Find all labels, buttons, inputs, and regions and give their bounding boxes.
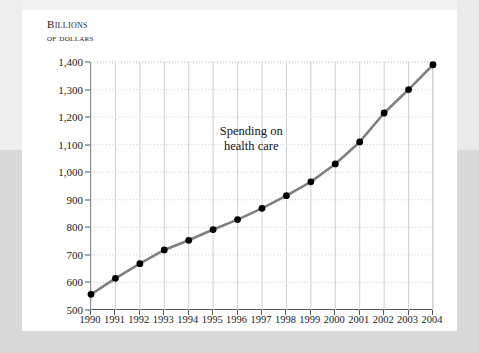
x-axis-tick bbox=[237, 310, 238, 315]
axis-unit-caption: Billions of dollars bbox=[47, 18, 94, 44]
chart-figure: Billions of dollars 5006007008009001,000… bbox=[0, 0, 479, 353]
series-line-health-care bbox=[91, 62, 433, 310]
x-axis-tick bbox=[359, 310, 360, 315]
y-axis-tick-label: 1,300 bbox=[37, 84, 83, 96]
series-annotation: Spending on health care bbox=[220, 124, 283, 154]
x-axis-tick bbox=[188, 310, 189, 315]
x-axis-tick-label: 1991 bbox=[104, 314, 125, 325]
data-point bbox=[161, 247, 168, 254]
data-point bbox=[356, 139, 363, 146]
x-axis-tick-label: 1995 bbox=[202, 314, 223, 325]
data-point bbox=[234, 216, 241, 223]
x-axis-tick bbox=[212, 310, 213, 315]
x-axis-tick bbox=[139, 310, 140, 315]
axis-unit-line2: of dollars bbox=[47, 31, 94, 44]
x-axis-tick-label: 2001 bbox=[348, 314, 369, 325]
annotation-line2: health care bbox=[220, 139, 283, 154]
data-point bbox=[259, 205, 266, 212]
axis-unit-line1: Billions bbox=[47, 18, 94, 31]
data-point bbox=[332, 161, 339, 168]
annotation-line1: Spending on bbox=[220, 124, 283, 139]
frame-band-bottom bbox=[0, 331, 479, 353]
x-axis-tick-label: 1999 bbox=[299, 314, 320, 325]
data-point bbox=[210, 226, 217, 233]
frame-band-left-upper bbox=[0, 0, 22, 150]
y-axis-tick-label: 600 bbox=[37, 276, 83, 288]
y-axis-tick-label: 1,100 bbox=[37, 139, 83, 151]
x-axis-tick bbox=[310, 310, 311, 315]
x-axis-tick bbox=[90, 310, 91, 315]
x-axis-tick-label: 2004 bbox=[422, 314, 443, 325]
x-axis-tick bbox=[285, 310, 286, 315]
y-axis-tick-label: 800 bbox=[37, 221, 83, 233]
x-axis-tick bbox=[163, 310, 164, 315]
y-axis-tick-label: 500 bbox=[37, 304, 83, 316]
x-axis-tick-label: 1997 bbox=[251, 314, 272, 325]
x-axis-tick bbox=[432, 310, 433, 315]
y-axis-tick-label: 700 bbox=[37, 249, 83, 261]
data-point bbox=[381, 110, 388, 117]
y-axis-tick-label: 1,000 bbox=[37, 166, 83, 178]
x-axis-tick bbox=[261, 310, 262, 315]
x-axis-tick-label: 1998 bbox=[275, 314, 296, 325]
x-axis-tick bbox=[408, 310, 409, 315]
y-axis-tick-label: 1,400 bbox=[37, 56, 83, 68]
x-axis-tick-label: 2003 bbox=[397, 314, 418, 325]
x-axis-tick-label: 1996 bbox=[226, 314, 247, 325]
y-axis-tick-label: 900 bbox=[37, 194, 83, 206]
x-axis-tick bbox=[334, 310, 335, 315]
data-point bbox=[136, 260, 143, 267]
x-axis-tick-label: 2002 bbox=[373, 314, 394, 325]
frame-band-right-lower bbox=[457, 150, 479, 353]
data-point bbox=[185, 237, 192, 244]
x-axis-tick-label: 1990 bbox=[80, 314, 101, 325]
plot-area bbox=[90, 62, 432, 310]
data-point bbox=[430, 61, 437, 68]
x-axis-tick-label: 1993 bbox=[153, 314, 174, 325]
frame-band-top bbox=[0, 0, 479, 10]
x-axis-tick-label: 2000 bbox=[324, 314, 345, 325]
x-axis-tick bbox=[383, 310, 384, 315]
data-point bbox=[112, 275, 119, 282]
data-point bbox=[405, 86, 412, 93]
x-axis-tick bbox=[114, 310, 115, 315]
x-axis-tick-label: 1994 bbox=[177, 314, 198, 325]
data-point bbox=[307, 178, 314, 185]
data-point bbox=[88, 291, 95, 298]
y-axis-tick-label: 1,200 bbox=[37, 111, 83, 123]
x-axis-tick-label: 1992 bbox=[128, 314, 149, 325]
data-point bbox=[283, 192, 290, 199]
